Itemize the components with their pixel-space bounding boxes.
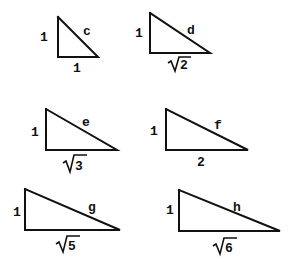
triangle-f-hypotenuse-label: f: [214, 118, 222, 133]
triangle-e-vertical-leg-label: 1: [31, 125, 39, 140]
triangle-e-horizontal-leg-radicand: 3: [75, 159, 83, 174]
right-triangles-diagram: 1 c 1 1 d 2 1 e 3 1 f 2 1 g 5 1 h 6: [0, 0, 290, 262]
triangle-g-outline: [25, 189, 120, 230]
triangle-e-hypotenuse-label: e: [82, 115, 90, 130]
triangle-g-vertical-leg-label: 1: [13, 205, 21, 220]
triangle-f-outline: [166, 109, 248, 150]
triangle-d: 1 d 2: [135, 13, 210, 73]
triangle-c: 1 c 1: [40, 17, 98, 76]
triangle-h-outline: [179, 190, 280, 231]
triangle-c-vertical-leg-label: 1: [40, 30, 48, 45]
triangle-h: 1 h 6: [166, 190, 280, 256]
triangle-f-vertical-leg-label: 1: [150, 124, 158, 139]
triangle-c-horizontal-leg-label: 1: [73, 61, 81, 76]
triangle-d-vertical-leg-label: 1: [135, 26, 143, 41]
triangle-d-outline: [150, 13, 210, 53]
triangle-h-horizontal-leg-radicand: 6: [225, 241, 233, 256]
triangle-e: 1 e 3: [31, 109, 117, 174]
triangle-d-hypotenuse-label: d: [187, 23, 195, 38]
triangle-d-horizontal-leg-radicand: 2: [180, 58, 188, 73]
triangle-c-hypotenuse-label: c: [83, 24, 91, 39]
triangle-c-outline: [58, 17, 98, 57]
triangle-g-horizontal-leg-radicand: 5: [68, 239, 76, 254]
triangle-f-horizontal-leg-label: 2: [197, 155, 205, 170]
triangle-g: 1 g 5: [13, 189, 120, 254]
triangle-h-hypotenuse-label: h: [233, 200, 241, 215]
triangle-h-vertical-leg-label: 1: [166, 203, 174, 218]
triangle-f: 1 f 2: [150, 109, 248, 170]
triangle-g-hypotenuse-label: g: [88, 200, 96, 215]
